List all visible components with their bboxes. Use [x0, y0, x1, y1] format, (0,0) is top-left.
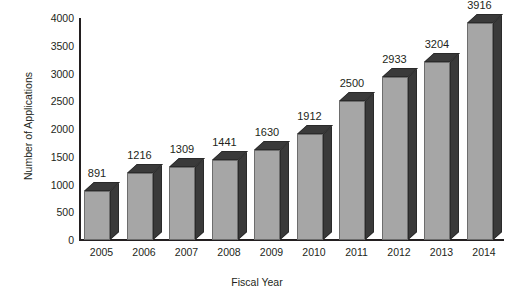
- bar-value-label: 1630: [248, 126, 286, 138]
- bar-front-face: [169, 167, 195, 240]
- bar-side-face: [110, 182, 119, 240]
- bar[interactable]: [424, 62, 450, 240]
- bar-front-face: [339, 101, 365, 240]
- y-tick-label: 3500: [51, 40, 74, 52]
- y-tick-label: 0: [68, 234, 74, 246]
- bar[interactable]: [169, 167, 195, 240]
- bar[interactable]: [127, 173, 153, 240]
- plot-area: 05001000150020002500300035004000 8911216…: [79, 18, 504, 240]
- bar-side-face: [450, 54, 459, 240]
- bar-front-face: [297, 134, 323, 240]
- y-axis-title: Number of Applications: [22, 36, 34, 216]
- bar-side-face: [238, 152, 247, 240]
- bar[interactable]: [84, 191, 110, 240]
- bar-value-label: 891: [78, 167, 116, 179]
- bar-front-face: [84, 191, 110, 240]
- y-tick-label: 1000: [51, 179, 74, 191]
- y-tick-label: 4000: [51, 12, 74, 24]
- bar[interactable]: [339, 101, 365, 240]
- y-axis-line: [79, 18, 81, 240]
- x-axis-title: Fiscal Year: [0, 276, 514, 288]
- bar-front-face: [424, 62, 450, 240]
- y-tick-label: 2500: [51, 95, 74, 107]
- bar[interactable]: [467, 23, 493, 240]
- bar[interactable]: [382, 77, 408, 240]
- bar-value-label: 1912: [291, 110, 329, 122]
- bar-side-face: [195, 159, 204, 240]
- y-tick-label: 2000: [51, 123, 74, 135]
- bar[interactable]: [254, 150, 280, 240]
- bar[interactable]: [297, 134, 323, 240]
- bar-front-face: [382, 77, 408, 240]
- y-tick-label: 3000: [51, 68, 74, 80]
- bar-value-label: 2933: [376, 53, 414, 65]
- bar-side-face: [280, 141, 289, 240]
- bar-value-label: 2500: [333, 77, 371, 89]
- y-tick-label: 500: [56, 206, 74, 218]
- bar-front-face: [127, 173, 153, 240]
- bar-side-face: [153, 164, 162, 240]
- bar-value-label: 1309: [163, 143, 201, 155]
- bar-value-label: 3204: [418, 38, 456, 50]
- bar-side-face: [408, 69, 417, 240]
- bar-side-face: [493, 15, 502, 240]
- bar-front-face: [467, 23, 493, 240]
- bar-front-face: [254, 150, 280, 240]
- bar[interactable]: [212, 160, 238, 240]
- bar-value-label: 3916: [461, 0, 499, 11]
- bar-chart: Number of Applications 05001000150020002…: [0, 0, 514, 304]
- bar-front-face: [212, 160, 238, 240]
- bar-value-label: 1441: [206, 136, 244, 148]
- x-tick-label: 2014: [460, 246, 509, 258]
- y-tick-label: 1500: [51, 151, 74, 163]
- bar-side-face: [323, 126, 332, 240]
- bar-value-label: 1216: [121, 149, 159, 161]
- bar-side-face: [365, 93, 374, 240]
